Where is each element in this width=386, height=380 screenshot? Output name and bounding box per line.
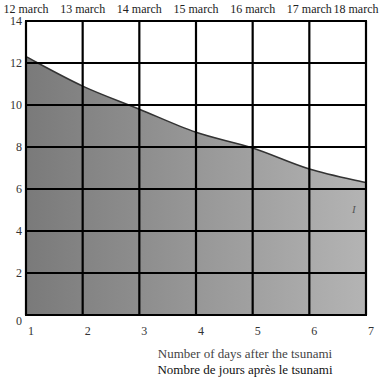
y-tick-label: 4 [0, 224, 22, 239]
x-tick-label: 1 [28, 324, 34, 339]
y-tick-label: 0 [0, 314, 22, 329]
x-tick-label: 2 [85, 324, 91, 339]
x-axis-title-english: Number of days after the tsunami [120, 346, 370, 362]
y-tick-label: 6 [0, 182, 22, 197]
x-tick-label: 3 [141, 324, 147, 339]
x-tick-label: 5 [255, 324, 261, 339]
date-label: 16 march [230, 2, 275, 17]
date-label: 17 march [287, 2, 332, 17]
y-tick-label: 10 [0, 98, 22, 113]
date-label: 13 march [60, 2, 105, 17]
date-label: 15 march [174, 2, 219, 17]
x-tick-label: 4 [198, 324, 204, 339]
y-tick-label: 12 [0, 56, 22, 71]
date-label: 14 march [117, 2, 162, 17]
y-tick-label: 14 [0, 14, 22, 29]
date-label: 18 march [334, 2, 379, 17]
x-tick-label: 7 [368, 324, 374, 339]
series-label: I [352, 203, 356, 215]
plot-area [0, 0, 386, 380]
y-tick-label: 2 [0, 266, 22, 281]
chart-container: 12 march13 march14 march15 march16 march… [0, 0, 386, 380]
x-axis-title-french: Nombre de jours après le tsunami [120, 362, 370, 378]
y-tick-label: 8 [0, 140, 22, 155]
x-tick-label: 6 [311, 324, 317, 339]
